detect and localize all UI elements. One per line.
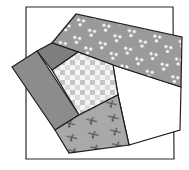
quilt-block-diagram [0, 0, 189, 170]
